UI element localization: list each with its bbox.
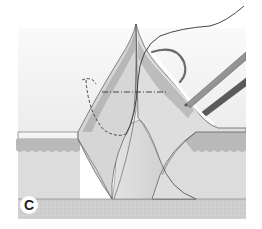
suture-illustration bbox=[0, 0, 262, 229]
subcutaneous-base bbox=[18, 199, 246, 219]
left-skin-block bbox=[16, 132, 80, 199]
panel-label: C bbox=[20, 196, 38, 214]
